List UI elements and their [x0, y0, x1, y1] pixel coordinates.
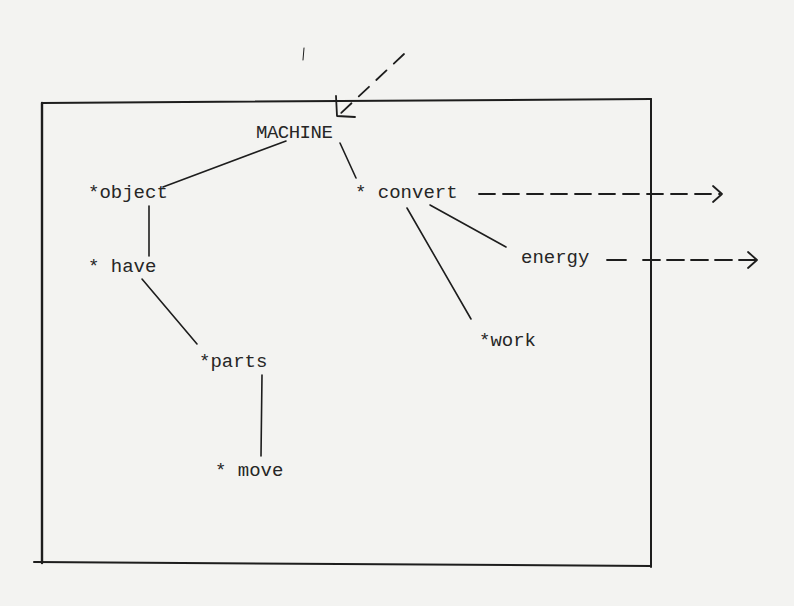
node-machine: MACHINE	[256, 122, 332, 144]
incoming-dashed-arrow	[336, 54, 404, 117]
node-parts: *parts	[199, 351, 267, 373]
node-work: *work	[479, 330, 536, 352]
node-object: *object	[88, 182, 168, 204]
node-convert: * convert	[355, 182, 458, 204]
scanned-page: MACHINE *object * have *parts * move * c…	[0, 0, 794, 606]
energy-outgoing-arrow	[607, 252, 757, 268]
edge-parts-move	[261, 375, 262, 456]
node-move: * move	[215, 460, 283, 482]
frame-box	[34, 99, 651, 567]
edge-machine-convert	[340, 143, 356, 178]
arrowhead-icon	[336, 96, 355, 117]
convert-outgoing-arrow	[479, 186, 722, 202]
node-energy: energy	[521, 247, 589, 269]
edge-machine-object	[163, 141, 286, 187]
edge-convert-work	[407, 208, 471, 319]
edge-have-parts	[142, 279, 197, 344]
concept-map-diagram: MACHINE *object * have *parts * move * c…	[0, 0, 794, 606]
stray-mark	[303, 48, 304, 60]
node-have: * have	[88, 256, 156, 278]
arrowhead-icon	[713, 186, 722, 202]
edge-convert-energy	[430, 205, 506, 247]
